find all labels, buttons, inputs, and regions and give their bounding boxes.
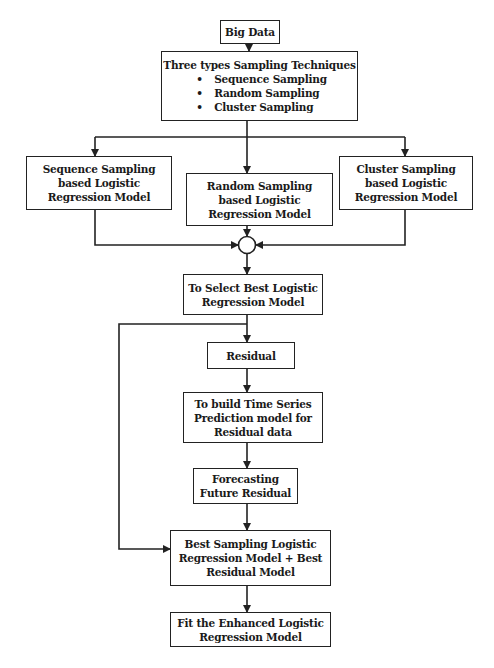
list-item: Random Sampling [192,86,327,100]
list-item: Sequence Sampling [192,72,327,86]
node-select-best: To Select Best Logistic Regression Model [183,274,323,315]
techniques-title: Three types Sampling Techniques [163,58,355,72]
node-sampling-techniques: Three types Sampling Techniques Sequence… [161,51,358,121]
merge-circle [239,237,256,254]
node-combined-model: Best Sampling Logistic Regression Model … [170,530,331,586]
node-sequence-model: Sequence Sampling based Logistic Regress… [26,156,172,210]
node-build-time-series: To build Time Series Prediction model fo… [183,392,323,443]
techniques-list: Sequence Sampling Random Sampling Cluste… [192,72,327,114]
node-cluster-model: Cluster Sampling based Logistic Regressi… [339,156,473,210]
node-forecasting: Forecasting Future Residual [193,468,298,504]
list-item: Cluster Sampling [192,100,327,114]
node-random-model: Random Sampling based Logistic Regressio… [186,173,333,226]
node-big-data: Big Data [220,20,280,44]
node-fit-enhanced: Fit the Enhanced Logistic Regression Mod… [170,612,331,647]
node-residual: Residual [207,342,295,369]
